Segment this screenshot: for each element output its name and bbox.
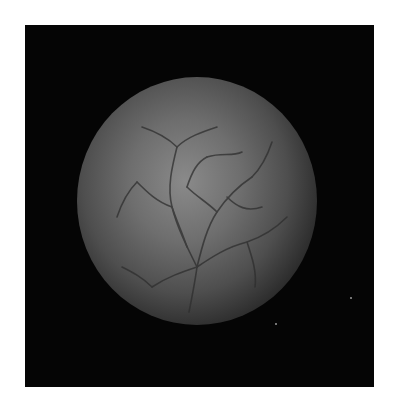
dust-speck bbox=[275, 323, 277, 325]
photo-frame bbox=[25, 25, 374, 387]
dust-speck bbox=[350, 297, 352, 299]
fundus-image bbox=[77, 77, 317, 325]
retinal-vessels bbox=[77, 77, 317, 325]
light-reflection bbox=[255, 85, 269, 94]
